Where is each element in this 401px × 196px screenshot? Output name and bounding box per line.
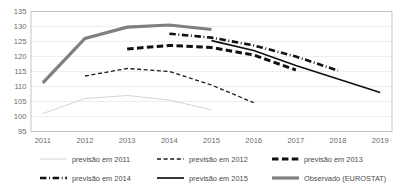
x-tick-label: 2015 — [203, 136, 220, 145]
x-axis-ticks: 201120122013201420152016201720182019 — [35, 136, 389, 145]
y-tick-label: 120 — [14, 52, 27, 61]
x-tick-label: 2017 — [287, 136, 304, 145]
y-tick-label: 130 — [14, 22, 27, 31]
line-chart: 1351301251201151101051009520112012201320… — [0, 0, 401, 196]
y-tick-label: 115 — [14, 67, 26, 76]
y-tick-label: 100 — [14, 112, 27, 121]
y-tick-label: 110 — [14, 82, 26, 91]
y-axis-ticks: 13513012512011511010510095 — [14, 7, 27, 136]
legend-label: previsão em 2015 — [189, 174, 248, 183]
x-tick-label: 2013 — [119, 136, 136, 145]
y-tick-label: 105 — [14, 97, 27, 106]
series-line-previs-o-em-2014 — [169, 34, 338, 71]
x-tick-label: 2016 — [245, 136, 262, 145]
x-tick-label: 2011 — [35, 136, 51, 145]
legend-label: Observado (EUROSTAT) — [304, 174, 386, 183]
series-line-previs-o-em-2012 — [85, 69, 254, 103]
legend-label: previsão em 2011 — [72, 155, 130, 164]
data-series-group — [43, 25, 380, 114]
series-line-observado-eurostat- — [43, 25, 212, 83]
chart-legend: previsão em 2011previsão em 2012previsão… — [40, 155, 386, 183]
series-line-previs-o-em-2011 — [43, 96, 212, 114]
y-tick-label: 135 — [14, 7, 27, 16]
chart-container: 1351301251201151101051009520112012201320… — [0, 0, 401, 196]
x-tick-label: 2014 — [161, 136, 178, 145]
legend-label: previsão em 2013 — [304, 155, 363, 164]
series-line-previs-o-em-2015 — [212, 41, 381, 93]
legend-label: previsão em 2012 — [189, 155, 248, 164]
y-tick-label: 125 — [14, 37, 27, 46]
x-tick-label: 2012 — [77, 136, 94, 145]
legend-label: previsão em 2014 — [72, 174, 131, 183]
x-tick-label: 2018 — [330, 136, 347, 145]
y-tick-label: 95 — [18, 127, 26, 136]
x-tick-label: 2019 — [372, 136, 389, 145]
